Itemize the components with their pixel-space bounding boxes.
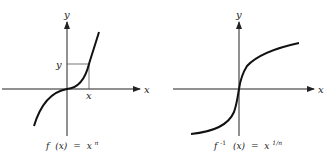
caption-arg: (x) — [55, 141, 68, 151]
caption-exp: 1/n — [272, 139, 282, 146]
left-x-axis-label: x — [144, 84, 150, 95]
caption-arg: (x) — [233, 141, 246, 151]
left-point-y-label: y — [55, 59, 62, 70]
right-y-axis-label: y — [235, 9, 242, 20]
caption-base: x — [264, 141, 269, 151]
caption-eq: = — [73, 141, 81, 151]
svg-text:f (x) =: f (x) = x n — [45, 139, 99, 151]
caption-exp: n — [95, 139, 99, 146]
caption-base: x — [87, 141, 92, 151]
caption-sup: -1 — [220, 139, 226, 146]
caption-func: f — [213, 141, 219, 151]
right-graph: y x f -1 (x) = x 1/n — [173, 9, 324, 151]
inverse-function-diagram: y x y x f (x) = x n y x f — [0, 0, 330, 154]
left-point-x-label: x — [86, 90, 92, 101]
caption-func: f — [45, 141, 51, 151]
left-y-axis-label: y — [63, 9, 70, 20]
caption-eq: = — [251, 141, 259, 151]
svg-text:f -1 (x): f -1 (x) = x 1/n — [213, 137, 282, 151]
right-x-axis-label: x — [318, 84, 324, 95]
left-caption: f (x) = x n — [45, 139, 99, 151]
left-graph: y x y x f (x) = x n — [2, 9, 150, 151]
right-caption: f -1 (x) = x 1/n — [213, 137, 282, 151]
